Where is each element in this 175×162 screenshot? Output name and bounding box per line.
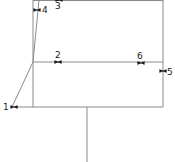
marker-label: 5 [167, 67, 173, 77]
diagram-markers: 123456 [3, 0, 173, 112]
diagram-lines [12, 0, 163, 162]
marker-3[interactable]: 3 [55, 0, 63, 11]
marker-6[interactable]: 6 [137, 51, 145, 65]
marker-4[interactable]: 4 [34, 5, 49, 15]
marker-label: 1 [3, 102, 9, 112]
marker-5[interactable]: 5 [160, 67, 173, 77]
marker-label: 4 [42, 5, 48, 15]
marker-1[interactable]: 1 [3, 102, 18, 112]
marker-label: 6 [137, 51, 143, 61]
marker-label: 3 [55, 1, 61, 11]
marker-2[interactable]: 2 [55, 50, 62, 64]
diagram-canvas: 123456 [0, 0, 175, 162]
diagonal-lower-line [12, 62, 33, 107]
marker-label: 2 [55, 50, 61, 60]
